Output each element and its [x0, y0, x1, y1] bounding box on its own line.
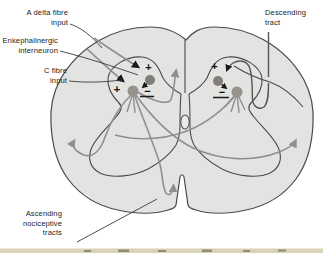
label-enkephalinergic-interneuron: Enkephalinergic interneuron [0, 36, 58, 55]
label-line: Ascending [0, 209, 62, 219]
label-line: interneuron [0, 46, 58, 56]
label-line: input [0, 18, 68, 28]
label-ascending-nociceptive-tracts: Ascending nociceptive tracts [0, 209, 62, 238]
central-canal [181, 115, 189, 129]
label-line: Descending [265, 8, 321, 18]
label-line: input [0, 76, 67, 86]
right-projection-neuron [232, 87, 243, 98]
plus-sign-descending-synapse: + [211, 61, 217, 72]
left-enkephalinergic-interneuron [145, 75, 155, 85]
label-line: C fibre [0, 66, 67, 76]
label-line: Enkephalinergic [0, 36, 58, 46]
figure-canvas: A delta fibre input Enkephalinergic inte… [0, 0, 323, 253]
label-descending-tract: Descending tract [265, 8, 321, 27]
label-line: tract [265, 18, 321, 28]
left-projection-neuron [128, 86, 139, 97]
label-a-delta-fibre-input: A delta fibre input [0, 8, 68, 27]
label-line: nociceptive [0, 219, 62, 229]
minus-sign-left-synapse: − [144, 86, 150, 97]
bottom-page-strip [0, 249, 323, 253]
label-line: A delta fibre [0, 8, 68, 18]
plus-sign-c-fibre-synapse: + [114, 84, 120, 95]
minus-sign-right-synapse: − [219, 87, 225, 98]
label-line: tracts [0, 228, 62, 238]
plus-sign-a-delta-synapse: + [145, 62, 151, 73]
label-c-fibre-input: C fibre input [0, 66, 67, 85]
right-enkephalinergic-interneuron [213, 76, 223, 86]
